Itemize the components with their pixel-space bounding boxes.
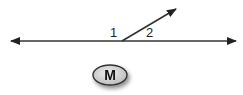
badge-text: M <box>104 67 116 83</box>
angle-label-1: 1 <box>110 25 117 40</box>
badge-m: M <box>93 65 127 85</box>
angle-diagram: 1 2 M <box>0 0 243 95</box>
angle-label-2: 2 <box>146 25 153 40</box>
